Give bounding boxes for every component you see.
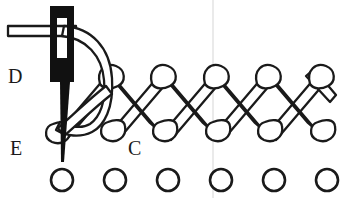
fabric-hole (316, 169, 338, 191)
label-d: D (8, 66, 22, 86)
label-c: C (128, 138, 141, 158)
fabric-hole-row (51, 169, 338, 191)
fabric-hole (210, 169, 232, 191)
fabric-hole (263, 169, 285, 191)
label-e: E (10, 138, 22, 158)
herringbone-stitch-diagram (0, 0, 357, 198)
fabric-hole (157, 169, 179, 191)
fabric-hole (104, 169, 126, 191)
fabric-hole (51, 169, 73, 191)
herringbone-stitch-band (8, 26, 336, 143)
top-row-loops (99, 65, 334, 88)
figure-canvas: D E C (0, 0, 357, 198)
needle-shaft (50, 6, 74, 82)
